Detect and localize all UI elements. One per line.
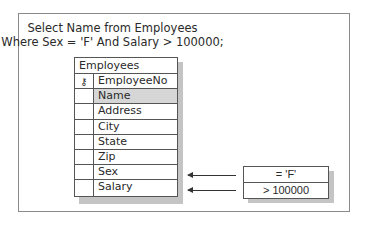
table-row: Address [75, 104, 177, 119]
criteria-sex: = 'F' [244, 167, 328, 183]
table-row: Salary [75, 180, 177, 195]
criteria-box: = 'F' > 100000 [243, 166, 329, 199]
employees-table: Employees ⚷ EmployeeNo Name Address City… [74, 57, 178, 197]
table-row: Sex [75, 165, 177, 180]
table-row: ⚷ EmployeeNo [75, 74, 177, 89]
table-row: City [75, 120, 177, 135]
field-name: State [94, 135, 177, 149]
field-name: EmployeeNo [94, 74, 177, 88]
table-row-selected: Name [75, 89, 177, 104]
table-row: State [75, 135, 177, 150]
field-name: Name [94, 89, 177, 103]
key-icon: ⚷ [75, 74, 94, 88]
table-row: Zip [75, 150, 177, 165]
table-title: Employees [75, 58, 177, 74]
sql-line-1: Select Name from Employees [0, 21, 225, 35]
field-name: Address [94, 104, 177, 118]
field-name: Zip [94, 150, 177, 164]
criteria-salary: > 100000 [244, 183, 328, 198]
sql-query: Select Name from Employees Where Sex = '… [0, 21, 225, 49]
field-name: Sex [94, 165, 177, 179]
arrow-salary [188, 190, 236, 191]
arrow-sex [188, 175, 236, 176]
field-name: City [94, 120, 177, 134]
field-name: Salary [94, 180, 177, 195]
sql-line-2: Where Sex = 'F' And Salary > 100000; [0, 35, 225, 49]
